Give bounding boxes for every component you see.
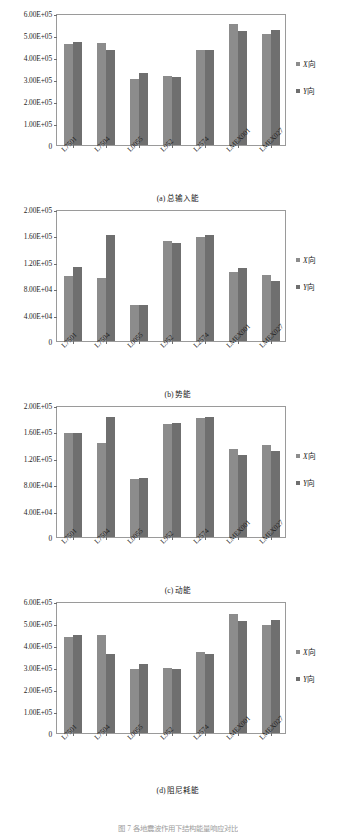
bar-x — [64, 637, 73, 733]
bar-group — [196, 407, 214, 537]
y-tick-label: 2.00E+05 — [24, 686, 52, 695]
bar-group — [97, 15, 115, 145]
bar-group — [64, 211, 82, 341]
y-axis: 04.00E+048.00E+041.20E+051.60E+052.00E+0… — [0, 202, 56, 350]
plot-area — [56, 210, 286, 342]
y-tick-label: 6.00E+05 — [24, 10, 52, 19]
bar-y — [106, 50, 115, 145]
bar-group — [229, 603, 247, 733]
legend-axis-suffix: 向 — [307, 479, 315, 488]
bar-y — [73, 267, 82, 341]
legend-swatch-icon — [296, 62, 300, 66]
y-tick-label: 5.00E+05 — [24, 620, 52, 629]
bar-y — [205, 417, 214, 537]
legend-label: X向 — [303, 58, 316, 69]
bar-y — [73, 635, 82, 733]
bar-y — [172, 77, 181, 145]
bar-group — [229, 407, 247, 537]
bar-y — [172, 423, 181, 537]
bar-x — [163, 668, 172, 733]
bars-layer — [57, 603, 285, 733]
legend-label: X向 — [303, 450, 316, 461]
bar-group — [130, 407, 148, 537]
bar-x — [64, 44, 73, 145]
legend-axis-suffix: 向 — [307, 675, 315, 684]
y-tick-label: 3.00E+05 — [24, 664, 52, 673]
bar-group — [64, 407, 82, 537]
bar-y — [139, 664, 148, 733]
bars-layer — [57, 15, 285, 145]
bar-group — [262, 15, 280, 145]
legend-item-x: X向 — [296, 450, 354, 461]
y-tick-label: 0 — [48, 142, 52, 151]
bar-x — [97, 43, 106, 145]
y-axis: 04.00E+048.00E+041.20E+051.60E+052.00E+0… — [0, 398, 56, 546]
y-tick-label: 5.00E+05 — [24, 32, 52, 41]
legend-swatch-icon — [296, 285, 300, 289]
bar-x — [262, 625, 271, 733]
legend-axis-suffix: 向 — [307, 87, 315, 96]
bar-group — [97, 211, 115, 341]
bar-y — [139, 73, 148, 145]
bar-x — [196, 237, 205, 341]
bar-group — [130, 15, 148, 145]
bar-x — [163, 241, 172, 341]
legend-axis-suffix: 向 — [308, 452, 316, 461]
y-tick-label: 8.00E+04 — [24, 481, 52, 490]
bar-y — [106, 654, 115, 733]
bar-x — [229, 614, 238, 733]
legend-label: Y向 — [303, 85, 315, 96]
y-tick-label: 1.60E+05 — [24, 428, 52, 437]
bar-group — [64, 15, 82, 145]
plot-area — [56, 602, 286, 734]
bars-layer — [57, 407, 285, 537]
y-tick-label: 3.00E+05 — [24, 76, 52, 85]
legend-swatch-icon — [296, 481, 300, 485]
legend-swatch-icon — [296, 258, 300, 262]
bar-x — [229, 24, 238, 145]
bar-group — [97, 407, 115, 537]
x-axis: L7501L7504L0055L952L2574LMEX001LMEX027 — [56, 540, 286, 584]
y-tick-label: 1.20E+05 — [24, 258, 52, 267]
bar-group — [64, 603, 82, 733]
chart-panel-a: 01.00E+052.00E+053.00E+054.00E+055.00E+0… — [0, 6, 356, 202]
plot-wrap: 01.00E+052.00E+053.00E+054.00E+055.00E+0… — [0, 594, 356, 754]
bar-group — [262, 407, 280, 537]
bar-x — [97, 443, 106, 537]
y-tick-label: 2.00E+05 — [24, 206, 52, 215]
legend-swatch-icon — [296, 650, 300, 654]
legend-axis-suffix: 向 — [307, 283, 315, 292]
figure-stack: 01.00E+052.00E+053.00E+054.00E+055.00E+0… — [0, 0, 356, 832]
legend-item-y: Y向 — [296, 85, 354, 96]
legend-swatch-icon — [296, 677, 300, 681]
legend-axis-suffix: 向 — [308, 60, 316, 69]
legend-label: X向 — [303, 646, 316, 657]
legend-label: X向 — [303, 254, 316, 265]
bar-x — [262, 34, 271, 145]
y-tick-label: 2.00E+05 — [24, 98, 52, 107]
legend-swatch-icon — [296, 454, 300, 458]
bar-x — [229, 449, 238, 537]
bar-group — [229, 211, 247, 341]
y-tick-label: 1.60E+05 — [24, 232, 52, 241]
legend-item-y: Y向 — [296, 281, 354, 292]
chart-panel-d: 01.00E+052.00E+053.00E+054.00E+055.00E+0… — [0, 594, 356, 804]
bar-y — [172, 243, 181, 341]
y-tick-label: 1.00E+05 — [24, 120, 52, 129]
y-tick-label: 8.00E+04 — [24, 285, 52, 294]
y-axis: 01.00E+052.00E+053.00E+054.00E+055.00E+0… — [0, 594, 56, 742]
bar-y — [106, 235, 115, 341]
bar-y — [172, 669, 181, 733]
plot-area — [56, 14, 286, 146]
legend-axis-suffix: 向 — [308, 648, 316, 657]
legend-item-x: X向 — [296, 254, 354, 265]
plot-wrap: 04.00E+048.00E+041.20E+051.60E+052.00E+0… — [0, 398, 356, 558]
bar-y — [205, 654, 214, 733]
x-axis: L7501L7504L0055L952L2574LMEX001LMEX027 — [56, 148, 286, 192]
y-tick-label: 6.00E+05 — [24, 598, 52, 607]
legend-item-y: Y向 — [296, 477, 354, 488]
bar-group — [229, 15, 247, 145]
y-tick-label: 0 — [48, 338, 52, 347]
legend-label: Y向 — [303, 477, 315, 488]
x-axis: L7501L7504L0055L952L2574LMEX001LMEX027 — [56, 344, 286, 388]
